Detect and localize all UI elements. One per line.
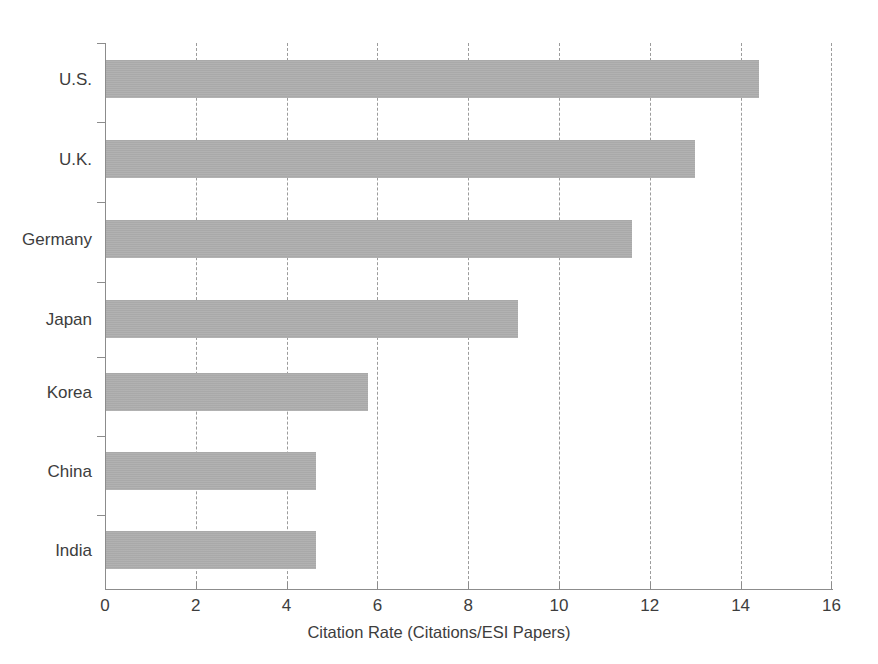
y-tick-1 — [97, 122, 106, 123]
x-tick-label-10: 10 — [529, 596, 589, 616]
bar-uk — [105, 140, 695, 178]
y-tick-label-japan: Japan — [0, 310, 92, 330]
x-tick-label-8: 8 — [438, 596, 498, 616]
gridline-12 — [650, 43, 651, 589]
x-tick-label-12: 12 — [620, 596, 680, 616]
x-tick-12 — [650, 582, 651, 590]
bar-germany — [105, 220, 632, 258]
x-tick-label-14: 14 — [711, 596, 771, 616]
x-tick-10 — [559, 582, 560, 590]
y-tick-2 — [97, 202, 106, 203]
x-tick-label-6: 6 — [347, 596, 407, 616]
citation-rate-bar-chart: U.S. U.K. Germany Japan Korea China Indi… — [0, 0, 878, 664]
y-tick-label-us: U.S. — [0, 70, 92, 90]
x-tick-2 — [196, 582, 197, 590]
x-tick-label-2: 2 — [166, 596, 226, 616]
x-tick-6 — [377, 582, 378, 590]
y-tick-label-germany: Germany — [0, 230, 92, 250]
gridline-14 — [741, 43, 742, 589]
y-tick-label-india: India — [0, 541, 92, 561]
y-tick-label-korea: Korea — [0, 383, 92, 403]
bar-japan — [105, 300, 518, 338]
bar-china — [105, 452, 316, 490]
x-tick-label-0: 0 — [75, 596, 135, 616]
x-tick-4 — [287, 582, 288, 590]
y-tick-5 — [97, 436, 106, 437]
x-axis-title: Citation Rate (Citations/ESI Papers) — [0, 623, 878, 642]
y-tick-6 — [97, 515, 106, 516]
bar-us — [105, 60, 759, 98]
bar-india — [105, 531, 316, 569]
y-axis-line — [105, 43, 106, 589]
gridline-10 — [559, 43, 560, 589]
y-tick-3 — [97, 282, 106, 283]
x-tick-16 — [831, 582, 832, 590]
x-tick-0 — [105, 582, 106, 590]
x-tick-14 — [741, 582, 742, 590]
gridline-16 — [831, 43, 832, 589]
x-tick-label-4: 4 — [257, 596, 317, 616]
y-tick-4 — [97, 357, 106, 358]
x-tick-8 — [468, 582, 469, 590]
bar-korea — [105, 373, 368, 411]
y-tick-label-china: China — [0, 462, 92, 482]
y-tick-label-uk: U.K. — [0, 150, 92, 170]
y-tick-top — [97, 43, 106, 44]
x-tick-label-16: 16 — [801, 596, 861, 616]
